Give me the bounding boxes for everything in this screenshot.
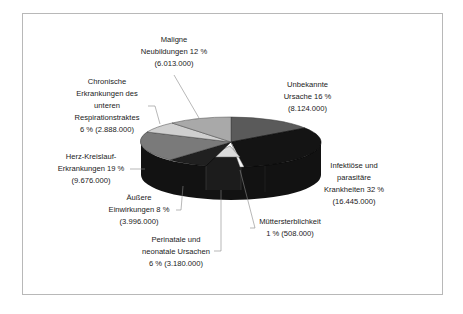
label-line: (16.445.000) bbox=[312, 196, 396, 208]
label-line: Müttersterblichkeit bbox=[250, 216, 330, 228]
label-line: Erkrankungen 19 % bbox=[50, 163, 132, 175]
label-line: 1 % (508.000) bbox=[250, 228, 330, 240]
label-perinatale: Perinatale und neonatale Ursachen 6 % (3… bbox=[134, 234, 218, 270]
label-line: Einwirkungen 8 % bbox=[99, 204, 179, 216]
label-line: Herz-Kreislauf- bbox=[50, 151, 132, 163]
label-unbekannte: Unbekannte Ursache 16 % (8.124.000) bbox=[270, 79, 345, 115]
label-line: 6 % (3.180.000) bbox=[134, 258, 218, 270]
label-line: Neubildungen 12 % bbox=[128, 46, 220, 58]
label-muetter: Müttersterblichkeit 1 % (508.000) bbox=[250, 216, 330, 240]
label-line: Respirationstraktes bbox=[62, 112, 152, 124]
label-line: (6.013.000) bbox=[128, 58, 220, 70]
label-line: Erkrankungen des bbox=[62, 88, 152, 100]
label-maligne: Maligne Neubildungen 12 % (6.013.000) bbox=[128, 34, 220, 70]
label-line: parasitäre bbox=[312, 172, 396, 184]
label-line: Perinatale und bbox=[134, 234, 218, 246]
label-line: (8.124.000) bbox=[270, 103, 345, 115]
label-herz: Herz-Kreislauf- Erkrankungen 19 % (9.676… bbox=[50, 151, 132, 187]
label-infektioese: Infektiöse und parasitäre Krankheiten 32… bbox=[312, 160, 396, 208]
label-line: Krankheiten 32 % bbox=[312, 184, 396, 196]
label-line: 6 % (2.888.000) bbox=[62, 124, 152, 136]
label-line: (9.676.000) bbox=[50, 175, 132, 187]
label-line: Unbekannte bbox=[270, 79, 345, 91]
label-aeussere: Äußere Einwirkungen 8 % (3.996.000) bbox=[99, 192, 179, 228]
label-line: (3.996.000) bbox=[99, 216, 179, 228]
label-line: Chronische bbox=[62, 76, 152, 88]
label-line: unteren bbox=[62, 100, 152, 112]
label-line: Äußere bbox=[99, 192, 179, 204]
label-line: Maligne bbox=[128, 34, 220, 46]
label-chronische: Chronische Erkrankungen des unteren Resp… bbox=[62, 76, 152, 136]
label-line: Ursache 16 % bbox=[270, 91, 345, 103]
label-line: neonatale Ursachen bbox=[134, 246, 218, 258]
label-line: Infektiöse und bbox=[312, 160, 396, 172]
